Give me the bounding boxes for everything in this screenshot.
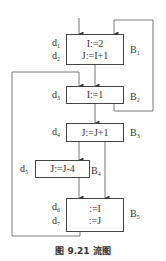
def-label-d4: d4 bbox=[52, 126, 60, 141]
block-label-b5: B5 bbox=[130, 208, 140, 223]
b3-stmt-1: J:=J+1 bbox=[82, 127, 109, 139]
def-label-d2: d2 bbox=[52, 50, 60, 65]
b2-stmt-1: I:=1 bbox=[87, 89, 104, 101]
block-label-b4: B4 bbox=[91, 165, 101, 180]
block-label-b1: B1 bbox=[130, 44, 140, 59]
b4-stmt-1: J:=J-4 bbox=[50, 163, 75, 175]
block-label-b3: B3 bbox=[130, 127, 140, 142]
figure-caption: 图 9.21 流图 bbox=[0, 244, 166, 257]
block-b2: I:=1 bbox=[66, 86, 124, 104]
b1-stmt-2: J:=I+1 bbox=[82, 50, 108, 62]
def-label-d3: d3 bbox=[52, 89, 60, 104]
def-label-d5: d5 bbox=[20, 163, 28, 178]
block-b4: J:=J-4 bbox=[35, 160, 90, 178]
block-b1: I:=2 J:=I+1 bbox=[66, 34, 124, 65]
def-label-d6: d6 bbox=[52, 201, 60, 216]
block-b5: :=I :=J bbox=[66, 198, 124, 232]
def-label-d7: d7 bbox=[52, 215, 60, 230]
block-label-b2: B2 bbox=[130, 91, 140, 106]
b5-stmt-2: :=J bbox=[89, 215, 101, 227]
b5-stmt-1: :=I bbox=[89, 203, 101, 215]
block-b3: J:=J+1 bbox=[66, 123, 124, 142]
b1-stmt-1: I:=2 bbox=[87, 38, 104, 50]
